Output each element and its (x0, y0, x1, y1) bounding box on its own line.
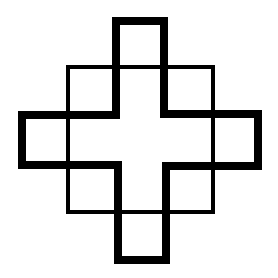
figure-canvas: Thick-outlined cross (plus sign) superim… (0, 0, 278, 278)
cross-square-diagram (0, 0, 278, 278)
thick-cross-outline (22, 21, 258, 260)
thin-square-outline (68, 67, 213, 212)
